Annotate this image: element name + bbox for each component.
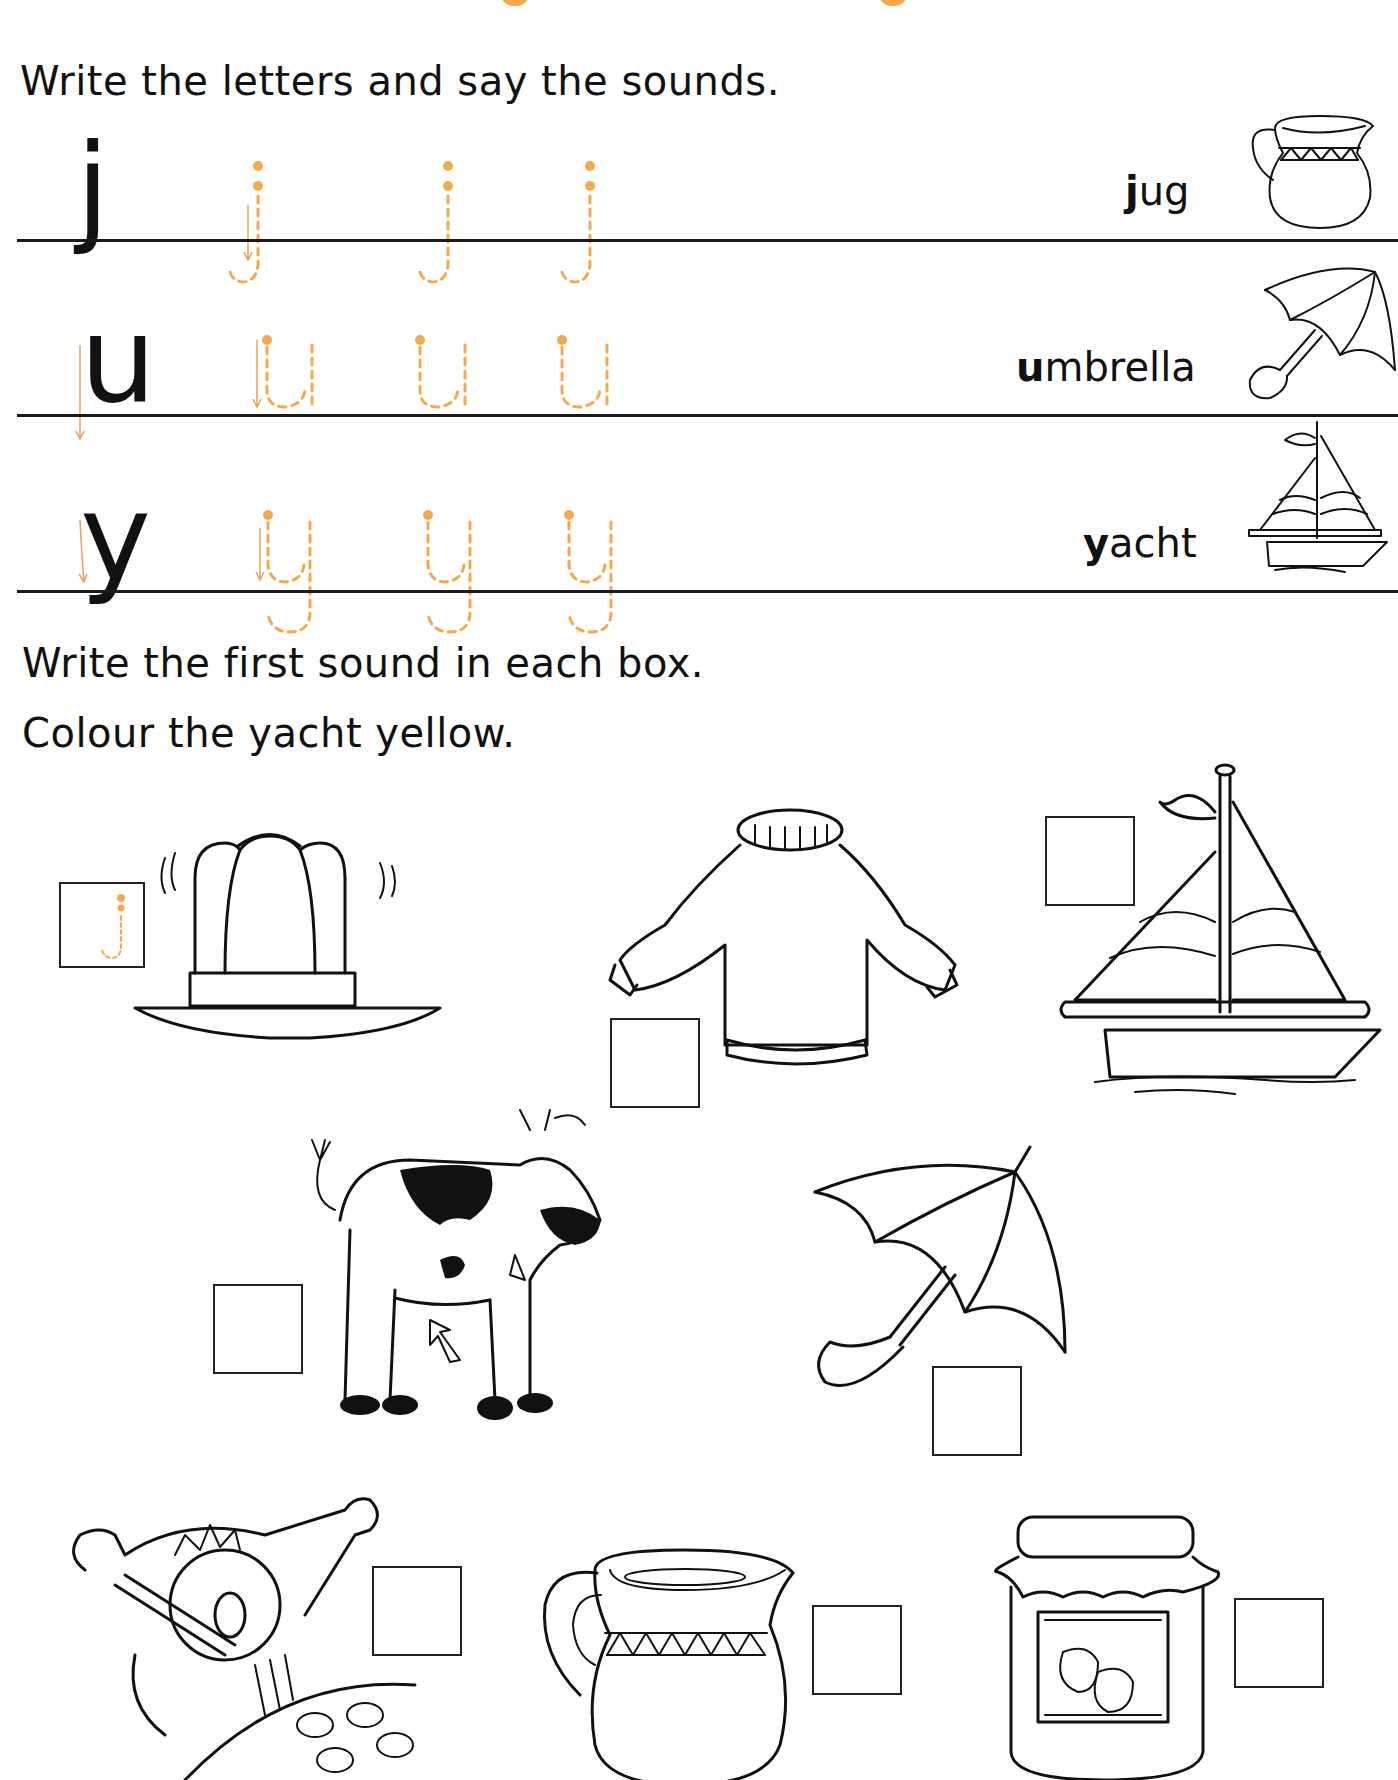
instruction-colour-yacht: Colour the yacht yellow.	[22, 710, 516, 756]
trace-letter-j-3[interactable]	[562, 160, 612, 290]
instruction-write-letters: Write the letters and say the sounds.	[20, 58, 780, 104]
jug-large-icon	[535, 1545, 795, 1780]
trace-letter-j-2[interactable]	[420, 160, 470, 290]
answer-box-jam[interactable]	[1234, 1598, 1324, 1688]
yacht-large-icon	[1065, 762, 1385, 1102]
title-fragment-left	[500, 0, 530, 6]
answer-box-umbrella[interactable]	[932, 1366, 1022, 1456]
model-letter-y: y	[80, 478, 151, 598]
yacht-icon	[1245, 418, 1395, 578]
trace-letter-j-1[interactable]	[230, 160, 280, 290]
stroke-arrow-y	[76, 520, 88, 590]
model-letter-u: u	[80, 300, 156, 420]
trace-letter-y-3[interactable]	[563, 510, 623, 635]
jam-jar-icon	[993, 1512, 1233, 1780]
word-jug: jug	[1125, 168, 1189, 214]
answer-box-jumper[interactable]	[610, 1018, 700, 1108]
writing-line-1	[17, 239, 1398, 242]
trace-letter-y-1[interactable]	[262, 510, 322, 635]
title-fragment-right	[878, 0, 908, 6]
writing-line-2	[17, 414, 1398, 417]
writing-line-3	[17, 590, 1398, 593]
stroke-arrow-u	[74, 345, 86, 445]
trace-letter-y-2[interactable]	[422, 510, 482, 635]
jug-icon	[1245, 108, 1395, 233]
jelly-icon	[130, 828, 450, 1028]
model-letter-j: j	[76, 128, 109, 248]
trace-letter-u-3[interactable]	[550, 335, 620, 415]
umbrella-icon	[1240, 260, 1398, 410]
word-yacht: yacht	[1083, 520, 1197, 566]
answer-box-jug[interactable]	[812, 1605, 902, 1695]
trace-letter-u-2[interactable]	[408, 335, 478, 415]
hint-trace-j	[101, 894, 131, 964]
cow-icon	[290, 1100, 630, 1440]
word-umbrella: umbrella	[1016, 344, 1196, 390]
trace-letter-u-1[interactable]	[255, 335, 325, 415]
answer-box-yawn[interactable]	[372, 1566, 462, 1656]
instruction-first-sound: Write the first sound in each box.	[22, 640, 704, 686]
